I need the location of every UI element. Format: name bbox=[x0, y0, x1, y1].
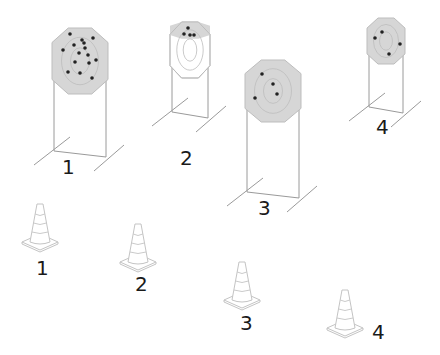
cone-body bbox=[128, 224, 148, 264]
cone-label-2: 2 bbox=[135, 274, 148, 294]
bullet-hole bbox=[77, 51, 81, 55]
cone-label-1: 1 bbox=[36, 258, 49, 278]
cone-body bbox=[30, 204, 50, 244]
bullet-hole bbox=[186, 26, 190, 30]
target-label-3: 3 bbox=[258, 198, 271, 218]
target-plate bbox=[245, 60, 301, 122]
target-plate bbox=[367, 18, 405, 64]
bullet-hole bbox=[398, 42, 402, 46]
cone-body bbox=[232, 262, 252, 302]
target-label-1: 1 bbox=[62, 157, 75, 177]
bullet-hole bbox=[80, 38, 84, 42]
bullet-hole bbox=[73, 60, 77, 64]
base-foot-left bbox=[152, 98, 188, 126]
bullet-hole bbox=[260, 72, 264, 76]
bullet-hole bbox=[188, 33, 192, 37]
bullet-hole bbox=[61, 48, 65, 52]
base-foot-right bbox=[196, 106, 226, 132]
bullet-hole bbox=[380, 30, 384, 34]
base-bar bbox=[172, 112, 208, 118]
bullet-hole bbox=[83, 46, 87, 50]
base-foot-right bbox=[287, 186, 317, 212]
bullet-hole bbox=[90, 76, 94, 80]
target-3 bbox=[227, 60, 317, 212]
target-plate bbox=[52, 28, 108, 94]
base-bar bbox=[369, 107, 403, 113]
target-1 bbox=[34, 28, 124, 171]
bullet-hole bbox=[373, 36, 377, 40]
target-4 bbox=[349, 18, 421, 127]
bullet-hole bbox=[387, 52, 391, 56]
bullet-hole bbox=[91, 36, 95, 40]
base-foot-right bbox=[391, 101, 421, 127]
cone-1 bbox=[22, 204, 58, 252]
cone-label-3: 3 bbox=[240, 313, 253, 333]
bullet-hole bbox=[78, 71, 82, 75]
bullet-hole bbox=[253, 96, 257, 100]
target-2 bbox=[152, 22, 226, 132]
bullet-hole bbox=[82, 41, 86, 45]
cone-2 bbox=[120, 224, 156, 272]
bullet-hole bbox=[87, 61, 91, 65]
base-foot-right bbox=[94, 145, 124, 171]
target-label-4: 4 bbox=[376, 117, 389, 137]
bullet-hole bbox=[271, 82, 275, 86]
bullet-hole bbox=[182, 32, 186, 36]
cone-label-4: 4 bbox=[372, 322, 385, 342]
bullet-hole bbox=[66, 70, 70, 74]
bullet-hole bbox=[275, 92, 279, 96]
cone-3 bbox=[224, 262, 260, 310]
bullet-hole bbox=[86, 53, 90, 57]
target-label-2: 2 bbox=[180, 148, 193, 168]
cone-body bbox=[335, 290, 355, 330]
base-bar bbox=[247, 192, 299, 198]
bullet-hole bbox=[94, 58, 98, 62]
bullet-hole bbox=[192, 33, 196, 37]
bullet-hole bbox=[72, 43, 76, 47]
bullet-hole bbox=[68, 32, 72, 36]
cone-4 bbox=[327, 290, 363, 338]
